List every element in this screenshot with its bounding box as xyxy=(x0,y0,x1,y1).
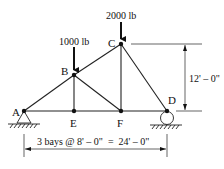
joint-f xyxy=(119,109,123,113)
label-b: B xyxy=(61,65,68,77)
label-e: E xyxy=(70,117,77,129)
joint-c xyxy=(119,42,123,46)
truss-members xyxy=(24,44,167,111)
height-dimension-label: 12' – 0" xyxy=(189,73,220,84)
label-d: D xyxy=(168,94,176,106)
load-label-b: 1000 lb xyxy=(59,36,89,47)
joint-a xyxy=(22,109,26,113)
joint-e xyxy=(72,109,76,113)
label-c: C xyxy=(108,37,115,49)
label-a: A xyxy=(12,106,20,118)
roller-support-d xyxy=(150,112,182,130)
load-2000lb: 2000 lb xyxy=(106,10,136,39)
joint-d xyxy=(165,109,169,113)
truss-joints xyxy=(22,42,169,113)
load-label-c: 2000 lb xyxy=(106,10,136,21)
span-dimension-label: 3 bays @ 8' – 0" = 24' – 0" xyxy=(37,136,149,147)
member-ab xyxy=(24,75,74,111)
member-cd xyxy=(121,44,167,111)
truss-diagram: A B C D E F 1000 lb 2000 lb 12' – 0" 3 b… xyxy=(0,0,224,169)
joint-b xyxy=(72,73,76,77)
label-f: F xyxy=(117,117,123,129)
member-bf xyxy=(74,75,121,111)
